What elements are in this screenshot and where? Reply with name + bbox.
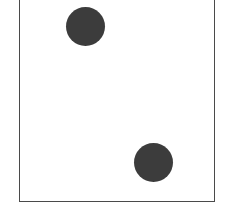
die-face <box>19 0 215 202</box>
pip-bottom-right <box>134 143 173 182</box>
pip-top-left <box>66 7 105 46</box>
